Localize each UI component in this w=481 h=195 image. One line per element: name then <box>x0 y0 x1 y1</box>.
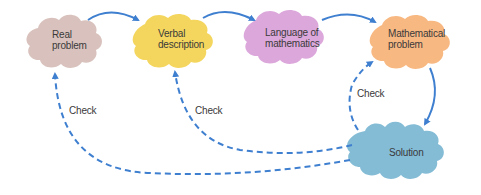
arrow-math-to-solution <box>425 68 435 124</box>
node-label-language-of-mathematics: Language of mathematics <box>265 27 320 49</box>
arrow-language-to-math <box>322 14 375 22</box>
check-label-verbal: Check <box>195 105 222 116</box>
node-label-solution: Solution <box>389 147 424 158</box>
arrow-verbal-to-language <box>203 12 254 20</box>
node-label-real-problem: Real problem <box>52 29 87 51</box>
check-label-math: Check <box>357 88 384 99</box>
node-label-verbal-description: Verbal description <box>158 28 204 50</box>
node-label-mathematical-problem: Mathematical problem <box>388 28 445 50</box>
arrow-real-to-verbal <box>88 13 138 21</box>
check-label-real: Check <box>69 105 96 116</box>
check-arrow-solution-to-real <box>55 74 350 174</box>
